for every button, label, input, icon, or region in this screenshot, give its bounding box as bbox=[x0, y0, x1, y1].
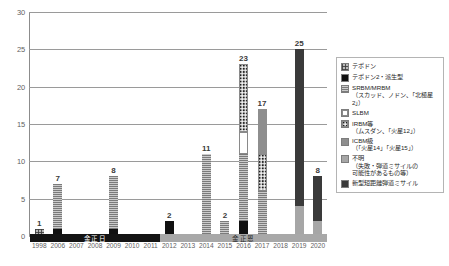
bar-total-label-2020: 8 bbox=[315, 167, 319, 175]
bar-total-label-2015: 2 bbox=[223, 212, 227, 220]
missile-launch-stacked-bar-chart: 30 25 20 15 10 5 0 17821122317258 金正日 金正… bbox=[0, 0, 449, 266]
y-tick-label-30: 30 bbox=[17, 8, 25, 17]
legend-label-irbm: IRBM等 （ムスダン、「火星12」） bbox=[352, 120, 419, 135]
legend-item-icbm[interactable]: ICBM級 （「火星14」「火星15」） bbox=[341, 137, 440, 152]
bar-total-label-2006: 7 bbox=[56, 175, 60, 183]
bar-total-label-2009: 8 bbox=[111, 167, 115, 175]
x-tick-label-1998: 1998 bbox=[32, 242, 47, 249]
legend-item-taepodong2[interactable]: テポドン2・派生型 bbox=[341, 73, 440, 82]
legend-label-newsrbm: 新型短距離弾道ミサイル bbox=[352, 179, 418, 186]
bar-2017[interactable]: 17 bbox=[258, 109, 267, 236]
x-tick-label-2017: 2017 bbox=[255, 242, 270, 249]
bar-segment-2020-newsrbm bbox=[313, 176, 322, 221]
bar-total-label-2017: 17 bbox=[258, 100, 267, 108]
x-tick-label-2019: 2019 bbox=[292, 242, 307, 249]
crosshatch-swatch bbox=[341, 63, 349, 71]
legend-item-irbm[interactable]: IRBM等 （ムスダン、「火星12」） bbox=[341, 120, 440, 135]
legend-label-slbm: SLBM bbox=[352, 109, 369, 116]
mid-gray-swatch bbox=[341, 138, 349, 146]
legend-label-taepodong: テポドン bbox=[352, 62, 376, 69]
bar-segment-2009-srbm bbox=[109, 176, 118, 228]
legend-label-taepodong2: テポドン2・派生型 bbox=[352, 73, 403, 80]
bar-total-label-2019: 25 bbox=[295, 40, 304, 48]
x-tick-label-2018: 2018 bbox=[273, 242, 288, 249]
y-tick-label-20: 20 bbox=[17, 82, 25, 91]
x-tick-label-2016: 2016 bbox=[236, 242, 251, 249]
legend: テポドンテポドン2・派生型SRBM/MRBM （スカッド、ノドン、「北極星2」）… bbox=[336, 57, 444, 193]
legend-item-slbm[interactable]: SLBM bbox=[341, 109, 440, 118]
leader-band-kim-jong-il: 金正日 bbox=[30, 234, 160, 242]
bar-2020[interactable]: 8 bbox=[313, 176, 322, 236]
bar-total-label-2012: 2 bbox=[167, 212, 171, 220]
x-tick-label-2010: 2010 bbox=[125, 242, 140, 249]
plot-area: 30 25 20 15 10 5 0 17821122317258 bbox=[29, 12, 327, 236]
bar-segment-2017-srbm bbox=[258, 191, 267, 236]
x-tick-label-2015: 2015 bbox=[218, 242, 233, 249]
y-tick-label-25: 25 bbox=[17, 45, 25, 54]
legend-item-srbm[interactable]: SRBM/MRBM （スカッド、ノドン、「北極星2」） bbox=[341, 84, 440, 106]
dark-gray-swatch bbox=[341, 180, 349, 188]
x-axis-labels: 1998200620072008200920102011201220132014… bbox=[30, 242, 327, 254]
x-tick-label-2020: 2020 bbox=[310, 242, 325, 249]
bar-segment-2014-srbm bbox=[202, 154, 211, 236]
y-tick-label-0: 0 bbox=[21, 232, 25, 241]
x-tick-label-2013: 2013 bbox=[180, 242, 195, 249]
bar-segment-2017-icbm bbox=[258, 109, 267, 154]
bar-segment-2019-unknown bbox=[295, 206, 304, 236]
y-tick-label-5: 5 bbox=[21, 194, 25, 203]
bar-2014[interactable]: 11 bbox=[202, 154, 211, 236]
bar-2016[interactable]: 23 bbox=[239, 64, 248, 236]
horizontal-lines-swatch bbox=[341, 85, 349, 93]
legend-item-taepodong[interactable]: テポドン bbox=[341, 62, 440, 71]
bar-segment-2016-slbm bbox=[239, 132, 248, 154]
legend-label-srbm: SRBM/MRBM （スカッド、ノドン、「北極星2」） bbox=[352, 84, 440, 106]
x-tick-label-2014: 2014 bbox=[199, 242, 214, 249]
x-tick-label-2011: 2011 bbox=[144, 242, 158, 249]
legend-item-unknown[interactable]: 不明 （失敗・弾道ミサイルの 可能性があるもの等） bbox=[341, 154, 440, 176]
bar-total-label-2014: 11 bbox=[202, 145, 210, 153]
bar-2009[interactable]: 8 bbox=[109, 176, 118, 236]
bar-segment-2019-newsrbm bbox=[295, 49, 304, 206]
dotted-swatch bbox=[341, 120, 349, 128]
bar-total-label-1998: 1 bbox=[37, 220, 41, 228]
leader-band-kim-jong-un: 金正恩 bbox=[160, 234, 327, 242]
x-tick-label-2006: 2006 bbox=[51, 242, 66, 249]
x-tick-label-2012: 2012 bbox=[162, 242, 177, 249]
bar-segment-2006-srbm bbox=[53, 184, 62, 229]
y-tick-label-15: 15 bbox=[17, 120, 25, 129]
bars-layer: 17821122317258 bbox=[30, 12, 327, 236]
bar-2006[interactable]: 7 bbox=[53, 184, 62, 236]
legend-item-newsrbm[interactable]: 新型短距離弾道ミサイル bbox=[341, 179, 440, 188]
x-tick-label-2007: 2007 bbox=[69, 242, 84, 249]
bar-segment-2016-irbm bbox=[239, 64, 248, 131]
white-swatch bbox=[341, 109, 349, 117]
bar-2019[interactable]: 25 bbox=[295, 49, 304, 236]
x-tick-label-2009: 2009 bbox=[106, 242, 121, 249]
bar-segment-2017-irbm bbox=[258, 154, 267, 191]
x-tick-label-2008: 2008 bbox=[88, 242, 103, 249]
bar-segment-2016-srbm bbox=[239, 154, 248, 221]
legend-label-icbm: ICBM級 （「火星14」「火星15」） bbox=[352, 137, 417, 152]
bar-total-label-2016: 23 bbox=[239, 55, 248, 63]
y-tick-label-10: 10 bbox=[17, 157, 25, 166]
legend-label-unknown: 不明 （失敗・弾道ミサイルの 可能性があるもの等） bbox=[352, 154, 418, 176]
solid-black-swatch bbox=[341, 74, 349, 82]
light-gray-swatch bbox=[341, 155, 349, 163]
